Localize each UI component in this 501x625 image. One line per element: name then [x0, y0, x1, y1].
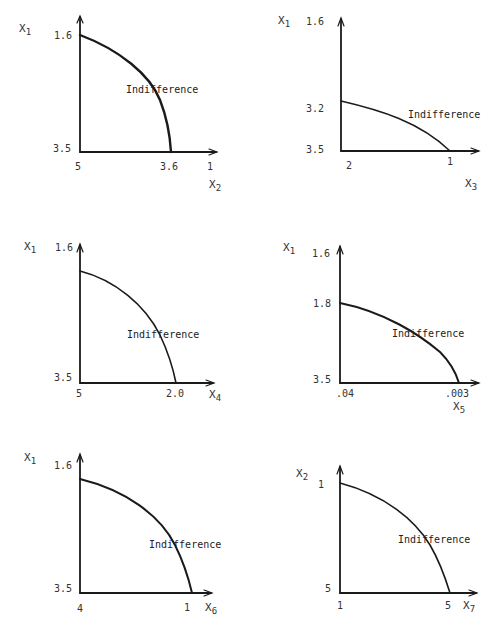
panel-2-axes — [338, 18, 479, 154]
panel-5-ytick-top: 1.6 — [54, 461, 72, 471]
panel-1-ytick-bottom: 3.5 — [53, 144, 71, 154]
panel-1-xtick-end: 1 — [207, 162, 213, 172]
panel-2-ytick-top: 1.6 — [306, 17, 324, 27]
panel-1-x-axis-label: X2 — [209, 179, 221, 190]
panel-4-ytick-mid: 1.8 — [313, 299, 331, 309]
panel-3-x-axis-label: X4 — [209, 389, 221, 400]
panel-4-xtick-origin: .04 — [336, 389, 354, 399]
panel-1-y-axis-label: X1 — [19, 23, 31, 34]
panel-5-x-axis-label: X6 — [205, 602, 217, 613]
panel-6-xtick-end: 5 — [445, 601, 451, 611]
panel-5-axes — [77, 454, 212, 596]
panel-4-indifference-curve — [340, 303, 459, 383]
panel-5-indifference-label: Indifference — [149, 540, 221, 550]
panel-6-axes — [337, 466, 477, 596]
panel-5-xtick-end: 1 — [184, 603, 190, 613]
panel-2-indifference-label: Indifference — [408, 110, 480, 120]
panel-4-indifference-label: Indifference — [392, 329, 464, 339]
panel-5-indifference-curve — [80, 479, 192, 593]
panel-6-xtick-origin: 1 — [337, 601, 343, 611]
panel-6-ytick-top: 1 — [318, 480, 324, 490]
panel-1-indifference-label: Indifference — [126, 85, 198, 95]
panel-2-y-axis-label: X1 — [278, 15, 290, 26]
panel-2-ytick-mid: 3.2 — [306, 104, 324, 114]
panel-2-ytick-bottom: 3.5 — [306, 145, 324, 155]
panel-6-indifference-label: Indifference — [398, 535, 470, 545]
indifference-curves-figure — [0, 0, 501, 625]
panel-1-xtick-origin: 5 — [75, 162, 81, 172]
panel-3-axes — [77, 244, 214, 386]
panel-4-ytick-top: 1.6 — [312, 249, 330, 259]
panel-6-ytick-bottom: 5 — [325, 584, 331, 594]
panel-5-y-axis-label: X1 — [24, 452, 36, 463]
panel-2-x-axis-label: X3 — [465, 178, 477, 189]
panel-4-ytick-bottom: 3.5 — [313, 375, 331, 385]
panel-3-indifference-label: Indifference — [127, 330, 199, 340]
panel-3-xtick-end: 2.0 — [166, 389, 184, 399]
panel-2-xtick-end: 1 — [447, 157, 453, 167]
panel-6-y-axis-label: X2 — [296, 468, 308, 479]
panel-3-ytick-top: 1.6 — [55, 243, 73, 253]
panel-3-y-axis-label: X1 — [24, 241, 36, 252]
panel-1-xtick-mid: 3.6 — [160, 162, 178, 172]
panel-4-axes — [337, 246, 479, 386]
panel-3-indifference-curve — [80, 271, 176, 383]
panel-4-xtick-end: .003 — [445, 389, 469, 399]
panel-3-ytick-bottom: 3.5 — [54, 373, 72, 383]
panel-5-xtick-origin: 4 — [77, 604, 83, 614]
panel-4-y-axis-label: X1 — [283, 242, 295, 253]
panel-2-xtick-origin: 2 — [346, 161, 352, 171]
panel-4-x-axis-label: X5 — [453, 401, 465, 412]
panel-3-xtick-origin: 5 — [76, 389, 82, 399]
panel-1-ytick-top: 1.6 — [54, 31, 72, 41]
panel-5-ytick-bottom: 3.5 — [54, 584, 72, 594]
panel-6-x-axis-label: X7 — [463, 600, 475, 611]
